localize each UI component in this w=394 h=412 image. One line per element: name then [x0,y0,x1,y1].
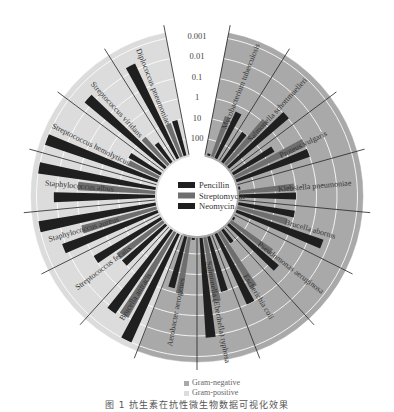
gram-negative-legend-item: Gram-negative [184,378,240,388]
gram-positive-swatch [184,391,189,396]
gram-positive-label: Gram-positive [192,388,238,397]
gram-positive-legend-item: Gram-positive [184,388,240,398]
gram-legend: Gram-negative Gram-positive [184,378,240,398]
legend-label: Streptomycin [199,191,246,201]
ring-label: 100 [191,133,204,143]
ring-label: 0.01 [190,51,205,61]
figure-caption: 图 1 抗生素在抗性微生物数据可视化效果 [0,398,394,411]
legend-swatch [178,182,195,188]
radial-antibiotic-chart: 0.0010.010.1110100Mycobacterium tubercul… [0,0,394,412]
ring-label: 0.1 [192,72,203,82]
ring-label: 1 [195,92,199,102]
legend-swatch [178,203,195,209]
gram-negative-label: Gram-negative [192,378,240,387]
ring-scale-labels: 0.0010.010.1110100 [187,31,206,144]
legend-swatch [178,193,195,199]
ring-label: 0.001 [187,31,206,41]
legend-label: Pencillin [199,180,230,190]
gram-negative-swatch [184,381,189,386]
legend-label: Neomycin [199,201,235,211]
ring-label: 10 [193,113,202,123]
bar-pencillin [192,238,195,240]
